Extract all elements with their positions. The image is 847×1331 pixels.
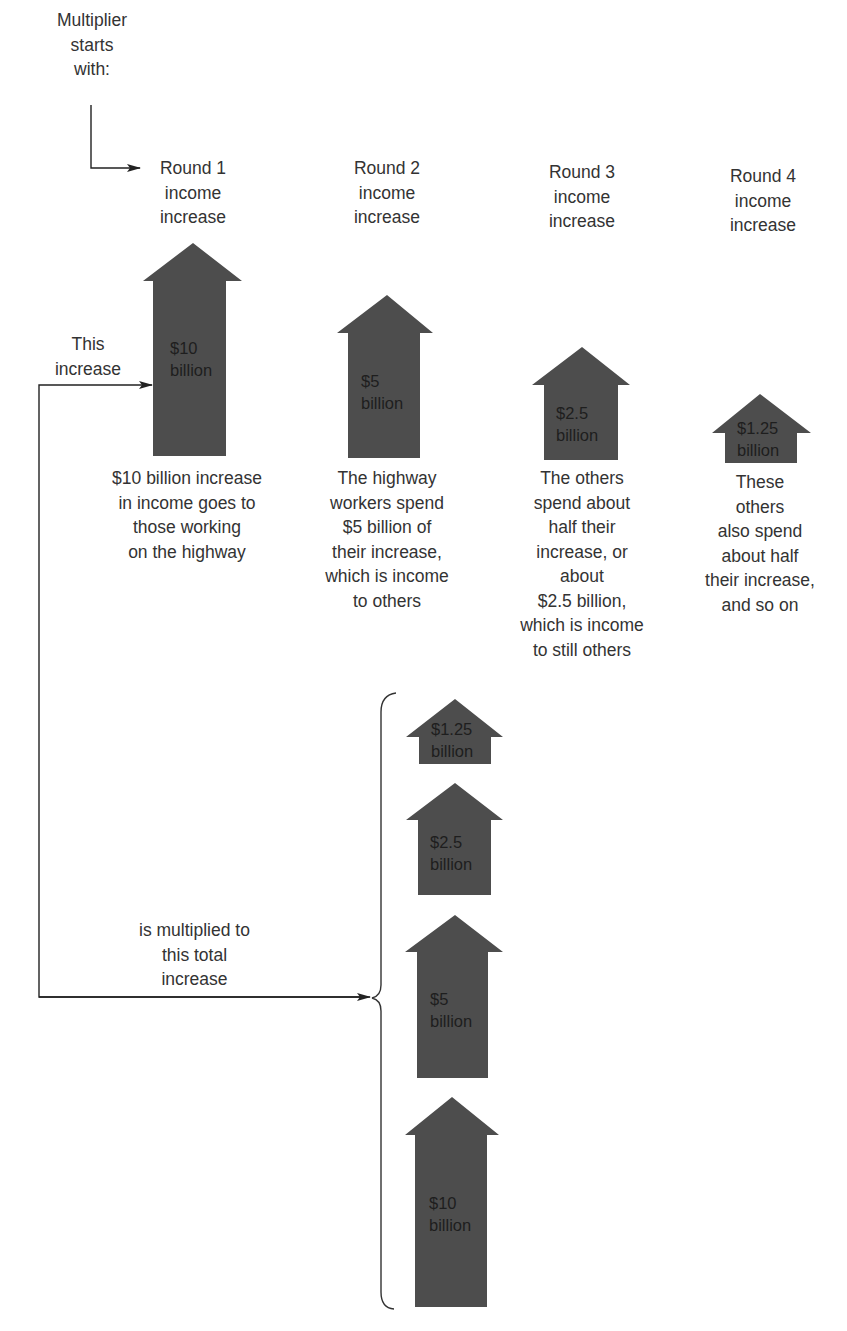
total-stack-amount-1-25: $1.25 billion [431,718,473,762]
round-4-description: These others also spend about half their… [685,470,835,617]
round-4-amount: $1.25 billion [737,417,779,461]
multiplied-total-label: is multiplied to this total increase [112,918,277,992]
round-2-amount: $5 billion [361,370,403,414]
multiplier-starts-label: Multiplier starts with: [40,8,144,82]
round-3-header: Round 3 income increase [517,160,647,234]
round-2-header: Round 2 income increase [322,156,452,230]
round-3-amount: $2.5 billion [556,402,598,446]
total-stack-amount-10: $10 billion [429,1192,471,1236]
round-3-description: The others spend about half their increa… [497,466,667,662]
total-brace [372,693,396,1309]
round-1-header: Round 1 income increase [128,156,258,230]
round-1-description: $10 billion increase in income goes to t… [82,466,292,564]
round-4-header: Round 4 income increase [703,164,823,238]
total-stack-amount-2-5: $2.5 billion [430,831,472,875]
round-1-amount: $10 billion [170,337,212,381]
round-2-description: The highway workers spend $5 billion of … [302,466,472,613]
this-increase-label: This increase [38,332,138,381]
total-stack-amount-5: $5 billion [430,988,472,1032]
